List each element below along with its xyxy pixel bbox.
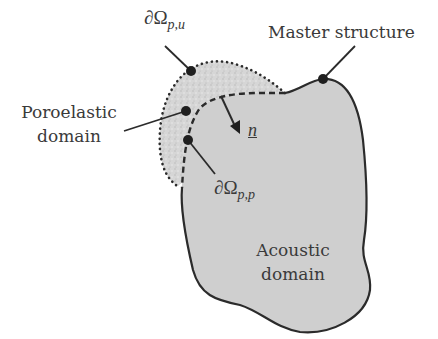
boundary-pp-label: ∂Ωp,p bbox=[214, 178, 255, 200]
marker-dot-master-structure bbox=[318, 74, 328, 84]
acoustic-label-line1: Acoustic bbox=[248, 240, 338, 260]
marker-dot-boundary-pp bbox=[183, 135, 193, 145]
boundary-pu-symbol: ∂Ω bbox=[144, 7, 168, 28]
marker-dot-poroelastic bbox=[181, 106, 191, 116]
normal-vector-label: n bbox=[248, 120, 257, 140]
boundary-pu-subscript: p,u bbox=[168, 17, 186, 32]
poroelastic-label-line1: Poroelastic bbox=[14, 102, 124, 122]
poroelastic-domain-label: Poroelastic domain bbox=[14, 102, 124, 146]
master-structure-label: Master structure bbox=[268, 22, 415, 42]
boundary-pp-subscript: p,p bbox=[238, 187, 256, 202]
diagram-canvas: ∂Ωp,u Master structure Poroelastic domai… bbox=[0, 0, 438, 339]
poroelastic-label-line2: domain bbox=[14, 126, 124, 146]
normal-vector-symbol: n bbox=[248, 120, 257, 140]
marker-dot-boundary-pu bbox=[186, 66, 196, 76]
leader-line-boundary-pu bbox=[165, 46, 191, 71]
boundary-pp-symbol: ∂Ω bbox=[214, 177, 238, 198]
boundary-pu-label: ∂Ωp,u bbox=[144, 8, 185, 30]
domain-figure bbox=[0, 0, 438, 339]
leader-line-master-structure bbox=[323, 46, 355, 79]
acoustic-label-line2: domain bbox=[248, 264, 338, 284]
acoustic-domain-label: Acoustic domain bbox=[248, 240, 338, 284]
